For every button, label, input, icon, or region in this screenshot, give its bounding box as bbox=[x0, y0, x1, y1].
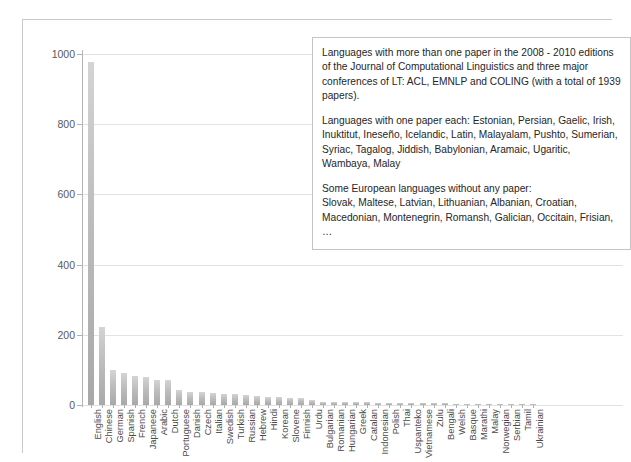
x-tick-label-text: Thai bbox=[403, 406, 412, 427]
x-tick-mark bbox=[533, 405, 534, 408]
x-tick-label-text: Russian bbox=[248, 406, 257, 443]
x-tick-label: Turkish bbox=[237, 373, 246, 406]
x-tick-label-text: Portuguese bbox=[182, 406, 191, 457]
x-tick-label-text: Marathi bbox=[480, 406, 489, 440]
x-tick-label: Indonesian bbox=[381, 358, 390, 407]
x-tick-label: Arabic bbox=[160, 377, 169, 406]
x-tick-mark bbox=[467, 405, 468, 408]
x-tick-mark bbox=[202, 405, 203, 408]
x-tick-label: Hindi bbox=[270, 382, 279, 406]
x-tick-label: Romanian bbox=[337, 361, 346, 406]
x-tick-label: Portuguese bbox=[182, 355, 191, 406]
x-tick-mark bbox=[91, 405, 92, 408]
x-tick-label-text: Tamil bbox=[524, 406, 533, 431]
x-tick-label: Basque bbox=[469, 371, 478, 406]
x-tick-label: Italian bbox=[215, 378, 224, 406]
y-tick-label: 400 bbox=[41, 259, 75, 270]
x-tick-label: Chinese bbox=[105, 369, 114, 406]
x-tick-mark bbox=[423, 405, 424, 408]
x-tick-mark bbox=[157, 405, 158, 408]
x-tick-label-text: French bbox=[138, 406, 147, 438]
x-tick-label-text: Polish bbox=[392, 406, 401, 434]
x-tick-label: Urdu bbox=[315, 383, 324, 406]
x-tick-label-text: Catalan bbox=[370, 406, 379, 441]
x-tick-mark bbox=[434, 405, 435, 408]
x-tick-mark bbox=[334, 405, 335, 408]
x-tick-mark bbox=[168, 405, 169, 408]
annotation-paragraph-3: Some European languages without any pape… bbox=[322, 182, 621, 240]
x-tick-mark bbox=[411, 405, 412, 408]
y-tick-mark bbox=[77, 405, 82, 406]
x-tick-mark bbox=[257, 405, 258, 408]
x-tick-label: Finnish bbox=[303, 373, 312, 406]
x-tick-label: Malay bbox=[491, 378, 500, 406]
x-tick-mark bbox=[179, 405, 180, 408]
x-tick-label-text: Uspanteko bbox=[414, 406, 423, 453]
y-tick-mark bbox=[77, 194, 82, 195]
x-tick-mark bbox=[367, 405, 368, 408]
chart-frame: 02004006008001000 EnglishChineseGermanSp… bbox=[22, 19, 612, 453]
y-tick-mark bbox=[77, 335, 82, 336]
x-tick-label-text: Welsh bbox=[458, 406, 467, 435]
x-tick-label: Slovene bbox=[292, 369, 301, 406]
x-tick-mark bbox=[323, 405, 324, 408]
x-tick-label-text: Norwegian bbox=[502, 406, 511, 453]
x-tick-label: German bbox=[116, 369, 125, 406]
x-tick-mark bbox=[279, 405, 280, 408]
x-tick-label: Norwegian bbox=[502, 359, 511, 406]
x-tick-mark bbox=[456, 405, 457, 408]
x-tick-mark bbox=[301, 405, 302, 408]
x-tick-label: Dutch bbox=[171, 379, 180, 406]
x-tick-label: Ukrainian bbox=[536, 364, 545, 406]
x-tick-label-text: Malay bbox=[491, 406, 500, 434]
x-tick-label-text: Turkish bbox=[237, 406, 246, 439]
x-tick-label-text: Finnish bbox=[303, 406, 312, 439]
x-tick-mark bbox=[400, 405, 401, 408]
annotation-paragraph-1: Languages with more than one paper in th… bbox=[322, 46, 621, 104]
x-tick-label: Vietnamese bbox=[425, 354, 434, 406]
x-tick-label-text: English bbox=[94, 406, 103, 440]
x-tick-label-text: Arabic bbox=[160, 406, 169, 435]
x-tick-label-text: Basque bbox=[469, 406, 478, 441]
x-tick-mark bbox=[312, 405, 313, 408]
x-tick-label-text: Czech bbox=[204, 406, 213, 435]
x-tick-label: Tamil bbox=[524, 381, 533, 406]
x-tick-label-text: Korean bbox=[281, 406, 290, 439]
x-tick-label: Polish bbox=[392, 378, 401, 406]
x-tick-label-text: Dutch bbox=[171, 406, 180, 433]
x-tick-label-text: Hindi bbox=[270, 406, 279, 430]
x-tick-label: Serbian bbox=[513, 371, 522, 406]
x-tick-mark bbox=[235, 405, 236, 408]
x-tick-label: Uspanteko bbox=[414, 359, 423, 406]
x-tick-mark bbox=[190, 405, 191, 408]
x-tick-label-text: Danish bbox=[193, 406, 202, 438]
x-tick-label: Czech bbox=[204, 377, 213, 406]
x-tick-label: Bengali bbox=[447, 372, 456, 406]
x-tick-label-text: Bengali bbox=[447, 406, 456, 440]
x-tick-mark bbox=[124, 405, 125, 408]
x-tick-mark bbox=[224, 405, 225, 408]
x-tick-mark bbox=[511, 405, 512, 408]
x-tick-label: English bbox=[94, 373, 103, 407]
x-tick-mark bbox=[522, 405, 523, 408]
x-tick-label: Thai bbox=[403, 385, 412, 406]
x-tick-mark bbox=[268, 405, 269, 408]
y-tick-label: 1000 bbox=[41, 49, 75, 60]
y-tick-label: 800 bbox=[41, 119, 75, 130]
x-tick-label: French bbox=[138, 374, 147, 406]
x-tick-label-text: German bbox=[116, 406, 125, 443]
x-tick-label: Bulgarian bbox=[326, 364, 335, 406]
y-tick-label: 200 bbox=[41, 330, 75, 341]
x-tick-mark bbox=[113, 405, 114, 408]
annotation-paragraph-2: Languages with one paper each: Estonian,… bbox=[322, 114, 621, 172]
x-tick-label: Hungarian bbox=[348, 360, 357, 406]
x-tick-label-text: Urdu bbox=[315, 406, 324, 429]
x-tick-label-text: Vietnamese bbox=[425, 406, 434, 458]
x-axis-tick-labels: EnglishChineseGermanSpanishFrenchJapanes… bbox=[83, 406, 623, 462]
x-tick-label-text: Zulu bbox=[436, 406, 445, 427]
x-tick-label: Catalan bbox=[370, 371, 379, 406]
y-tick-label: 600 bbox=[41, 189, 75, 200]
x-tick-mark bbox=[290, 405, 291, 408]
x-tick-mark bbox=[135, 405, 136, 408]
x-tick-mark bbox=[478, 405, 479, 408]
